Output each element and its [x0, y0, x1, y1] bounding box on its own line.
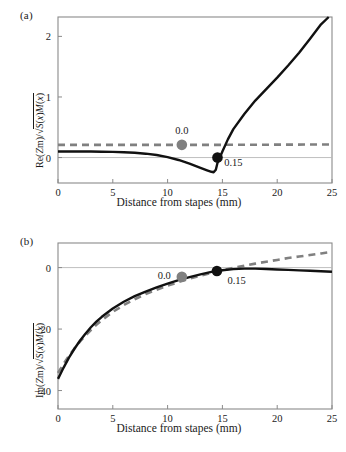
- panel-a-plot: [0, 0, 346, 226]
- y-tick-label: 0: [0, 152, 51, 163]
- y-tick-label: −20: [0, 324, 51, 335]
- panel-a: (a) Distance from stapes (mm) Re(Zm)/√S(…: [0, 0, 346, 226]
- x-tick-label: 10: [162, 413, 173, 424]
- x-tick-label: 15: [217, 413, 228, 424]
- annotation-0-0: 0.0: [158, 270, 171, 281]
- panel-b: (b) Distance from stapes (mm) Im(Zm)/√S(…: [0, 226, 346, 452]
- x-tick-label: 20: [272, 187, 283, 198]
- yaxis-slash: /: [34, 364, 45, 367]
- x-tick-label: 10: [162, 187, 173, 198]
- figure-container: (a) Distance from stapes (mm) Re(Zm)/√S(…: [0, 0, 346, 452]
- radical-icon: √: [34, 129, 45, 135]
- plot-frame: [58, 17, 332, 183]
- x-tick-label: 0: [55, 187, 60, 198]
- annotation-0-15: 0.15: [227, 275, 245, 286]
- annotation-0-15: 0.15: [224, 157, 242, 168]
- x-tick-label: 5: [110, 413, 115, 424]
- data-marker-0-15[interactable]: [212, 152, 223, 163]
- x-tick-label: 25: [327, 413, 338, 424]
- y-tick-label: 0: [0, 262, 51, 273]
- x-tick-label: 20: [272, 413, 283, 424]
- curve-solid-0-15: [58, 17, 329, 172]
- data-marker-0-0[interactable]: [177, 140, 188, 151]
- data-marker-0-0[interactable]: [177, 272, 188, 283]
- yaxis-slash: /: [34, 134, 45, 137]
- x-tick-label: 25: [327, 187, 338, 198]
- annotation-0-0: 0.0: [175, 125, 188, 136]
- y-tick-label: −40: [0, 385, 51, 396]
- x-tick-label: 5: [110, 187, 115, 198]
- y-tick-label: 2: [0, 31, 51, 42]
- x-tick-label: 15: [217, 187, 228, 198]
- radical-icon: √: [34, 359, 45, 365]
- panel-b-plot: [0, 226, 346, 452]
- x-tick-label: 0: [55, 413, 60, 424]
- data-marker-0-15[interactable]: [212, 266, 223, 277]
- y-tick-label: 1: [0, 91, 51, 102]
